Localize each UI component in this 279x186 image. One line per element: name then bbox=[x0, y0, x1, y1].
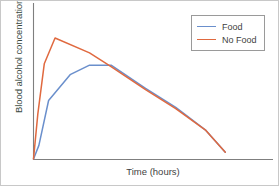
legend-swatch-food bbox=[197, 26, 216, 27]
legend-item-food[interactable]: Food bbox=[197, 20, 257, 33]
series-line-no-food bbox=[34, 38, 226, 159]
chart-figure: Blood alcohol concentration (g/dL) Time … bbox=[0, 0, 279, 186]
y-axis-label: Blood alcohol concentration (g/dL) bbox=[13, 0, 24, 116]
legend-label-no-food: No Food bbox=[222, 35, 257, 45]
legend-swatch-no-food bbox=[197, 39, 216, 40]
x-axis-label: Time (hours) bbox=[33, 166, 273, 177]
legend-item-no-food[interactable]: No Food bbox=[197, 33, 257, 46]
legend-label-food: Food bbox=[222, 22, 243, 32]
chart-legend: Food No Food bbox=[191, 15, 265, 51]
